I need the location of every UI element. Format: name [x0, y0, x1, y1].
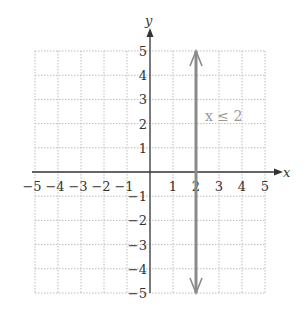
- y-tick-label: 2: [139, 117, 147, 132]
- x-tick-label: −3: [68, 179, 87, 194]
- axes: [32, 28, 283, 293]
- y-tick-label: −4: [128, 262, 147, 277]
- y-tick-label: 4: [139, 68, 147, 83]
- x-axis-arrow-icon: [274, 169, 283, 176]
- y-tick-label: −2: [128, 213, 147, 228]
- x-tick-label: −4: [45, 179, 64, 194]
- x-tick-label: 5: [261, 179, 269, 194]
- y-axis-arrow-icon: [147, 28, 154, 37]
- x-tick-label: −2: [91, 179, 110, 194]
- inequality-annotation: x ≤ 2: [205, 108, 242, 124]
- y-axis-label: y: [144, 13, 153, 28]
- x-axis-label: x: [283, 165, 291, 180]
- y-tick-label: −1: [128, 189, 147, 204]
- y-tick-label: −5: [128, 286, 147, 301]
- y-tick-label: 5: [139, 44, 147, 59]
- x-tick-label: 4: [238, 179, 246, 194]
- y-tick-label: 1: [139, 141, 147, 156]
- y-tick-label: −3: [128, 238, 147, 253]
- x-tick-label: −5: [22, 179, 41, 194]
- y-tick-label: 3: [139, 92, 147, 107]
- x-tick-label: 1: [169, 179, 177, 194]
- x-tick-label: 3: [215, 179, 223, 194]
- coordinate-plane: −5−4−3−2−11234554321−1−2−3−4−5 x y x ≤ 2: [0, 0, 302, 314]
